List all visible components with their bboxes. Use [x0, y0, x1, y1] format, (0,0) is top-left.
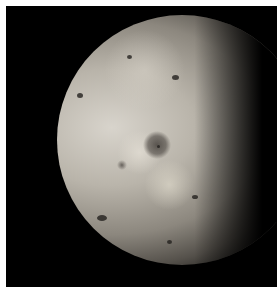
moon — [57, 15, 277, 265]
photo-frame — [6, 6, 277, 287]
terminator-shadow — [57, 15, 277, 265]
